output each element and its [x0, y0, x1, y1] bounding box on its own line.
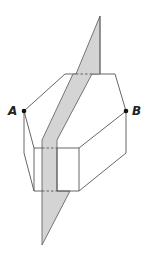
- diagram-canvas: A B: [0, 0, 150, 254]
- point-b-dot: [124, 109, 129, 114]
- cutting-plane: [42, 16, 100, 245]
- point-a-dot: [22, 109, 27, 114]
- point-b-label: B: [132, 104, 141, 118]
- point-a-label: A: [7, 104, 17, 118]
- prism-front-edges: [24, 111, 126, 191]
